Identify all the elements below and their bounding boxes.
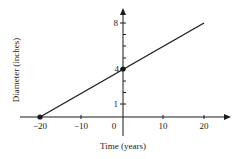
x-axis-arrow-icon (224, 114, 231, 120)
x-tick-label: 0 (112, 121, 117, 131)
chart-svg: −20 −10 0 10 20 1 4 8 Time (years) Diame… (0, 0, 240, 159)
data-point (37, 114, 42, 119)
line-chart: −20 −10 0 10 20 1 4 8 Time (years) Diame… (0, 0, 240, 159)
y-tick-label: 8 (114, 18, 119, 28)
x-tick-label: 10 (159, 121, 169, 131)
y-tick-label: 1 (114, 99, 119, 109)
y-axis-label: Diameter (inches) (11, 38, 21, 103)
x-axis-label: Time (years) (100, 141, 146, 151)
x-tick-label: 20 (200, 121, 210, 131)
x-tick-label: −10 (74, 121, 89, 131)
data-point (120, 66, 125, 71)
x-tick-label: −20 (33, 121, 48, 131)
y-axis-arrow-icon (120, 8, 126, 15)
